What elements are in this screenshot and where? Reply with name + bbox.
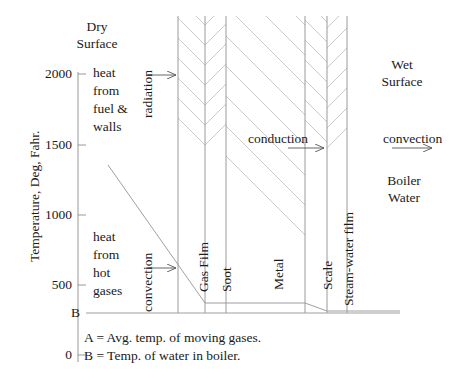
transfer-arrows	[148, 75, 432, 268]
boiler-water-line2: Water	[374, 190, 434, 206]
legend-line-b: B = Temp. of water in boiler.	[84, 348, 240, 364]
y-tick-label-500: 500	[32, 277, 72, 293]
heat-lower-line3: hot	[93, 265, 110, 281]
heat-upper-line4: walls	[93, 119, 122, 135]
wet-surface-line2: Surface	[372, 74, 432, 90]
heat-lower-line1: heat	[93, 229, 116, 245]
radiation-label: radiation	[140, 70, 156, 118]
convection-right-label: convection	[383, 131, 442, 147]
heat-transfer-diagram: Temperature, Deg, Fahr. 2000 1500 1000 5…	[0, 0, 449, 382]
curve-a-gas-film-drop	[108, 165, 205, 303]
y-tick-label-1500: 1500	[32, 137, 72, 153]
legend-line-a: A = Avg. temp. of moving gases.	[84, 330, 261, 346]
wet-surface-line1: Wet	[372, 57, 432, 73]
boiler-water-line1: Boiler	[374, 173, 434, 189]
heat-upper-line2: from	[93, 83, 119, 99]
layer-label-scale: Scale	[320, 261, 336, 290]
layer-label-gas-film: Gas Film	[196, 242, 212, 292]
layer-label-metal: Metal	[271, 259, 287, 291]
convection-left-label: convection	[140, 253, 156, 312]
heat-upper-line1: heat	[93, 65, 116, 81]
conduction-label: conduction	[248, 131, 308, 147]
y-tick-label-0: 0	[32, 347, 72, 363]
heat-lower-line4: gases	[93, 283, 122, 299]
dry-surface-line2: Surface	[67, 36, 127, 52]
curve-a-layer-profile	[205, 303, 400, 311]
b-marker-label: B	[71, 305, 80, 321]
heat-lower-line2: from	[93, 247, 119, 263]
heat-upper-line3: fuel &	[93, 101, 128, 117]
layer-label-steam-water-film: Steam-water film	[341, 212, 357, 306]
dry-surface-line1: Dry	[67, 19, 127, 35]
layer-label-soot: Soot	[219, 267, 235, 292]
y-tick-label-1000: 1000	[32, 207, 72, 223]
y-tick-label-2000: 2000	[32, 66, 72, 82]
